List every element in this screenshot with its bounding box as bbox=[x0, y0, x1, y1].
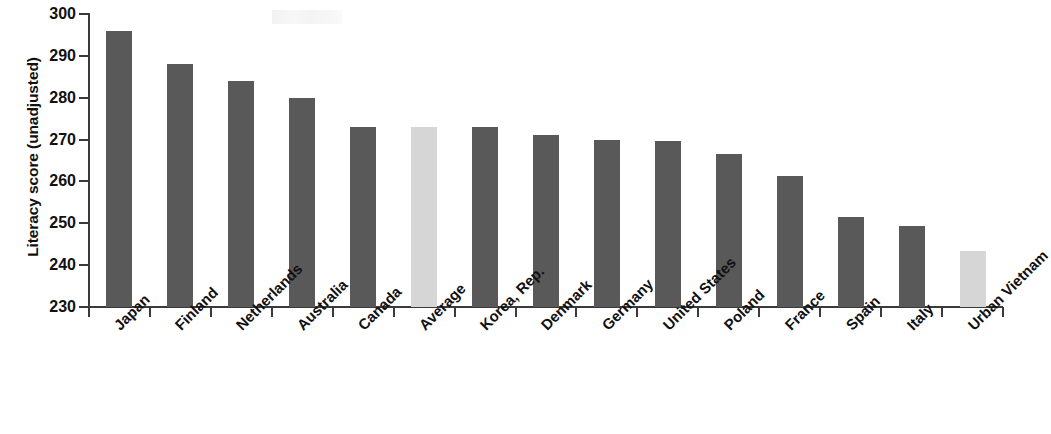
y-axis-tick bbox=[79, 97, 89, 99]
x-axis-tick bbox=[332, 307, 334, 317]
bar-finland bbox=[167, 64, 193, 307]
x-axis-tick bbox=[575, 307, 577, 317]
y-axis-tick-label: 230 bbox=[30, 299, 76, 315]
y-axis-tick-label-wrap: 240 bbox=[24, 257, 76, 273]
y-axis-tick-label: 260 bbox=[30, 173, 76, 189]
x-axis-tick bbox=[941, 307, 943, 317]
bar-korea-rep bbox=[472, 127, 498, 307]
bar-italy bbox=[899, 226, 925, 307]
x-axis-tick bbox=[880, 307, 882, 317]
x-axis-tick bbox=[515, 307, 517, 317]
bar-canada bbox=[350, 127, 376, 307]
bar-japan bbox=[106, 31, 132, 307]
plot-area bbox=[89, 14, 1003, 307]
bar-urban-vietnam bbox=[960, 251, 986, 308]
bar-netherlands bbox=[228, 81, 254, 307]
y-axis-tick-label: 270 bbox=[30, 132, 76, 148]
x-axis-tick bbox=[210, 307, 212, 317]
y-axis-tick-label-wrap: 280 bbox=[24, 90, 76, 106]
bar-united-states bbox=[655, 141, 681, 307]
y-axis-tick-label-wrap: 260 bbox=[24, 173, 76, 189]
x-axis-tick bbox=[697, 307, 699, 317]
y-axis-tick bbox=[79, 264, 89, 266]
y-axis-tick bbox=[79, 55, 89, 57]
y-axis-tick-label: 250 bbox=[30, 215, 76, 231]
x-axis-tick bbox=[88, 307, 90, 317]
y-axis-tick-label: 290 bbox=[30, 48, 76, 64]
y-axis-tick-label: 300 bbox=[30, 6, 76, 22]
x-axis-tick bbox=[271, 307, 273, 317]
y-axis-tick bbox=[79, 222, 89, 224]
x-axis-tick bbox=[393, 307, 395, 317]
bar-germany bbox=[594, 140, 620, 307]
bar-france bbox=[777, 176, 803, 307]
y-axis-tick-label-wrap: 230 bbox=[24, 299, 76, 315]
y-axis-tick-label-wrap: 290 bbox=[24, 48, 76, 64]
y-axis-tick-label: 240 bbox=[30, 257, 76, 273]
x-axis-tick bbox=[454, 307, 456, 317]
x-axis-tick bbox=[636, 307, 638, 317]
x-axis-tick bbox=[758, 307, 760, 317]
bar-spain bbox=[838, 217, 864, 307]
y-axis-tick bbox=[79, 180, 89, 182]
y-axis-tick bbox=[79, 13, 89, 15]
y-axis-tick bbox=[79, 139, 89, 141]
y-axis-tick-label-wrap: 300 bbox=[24, 6, 76, 22]
x-axis-tick bbox=[149, 307, 151, 317]
x-axis-tick bbox=[819, 307, 821, 317]
y-axis-tick-label-wrap: 270 bbox=[24, 132, 76, 148]
y-axis-tick-label-wrap: 250 bbox=[24, 215, 76, 231]
x-axis-tick bbox=[1002, 307, 1004, 317]
y-axis-tick-label: 280 bbox=[30, 90, 76, 106]
bar-average bbox=[411, 127, 437, 307]
